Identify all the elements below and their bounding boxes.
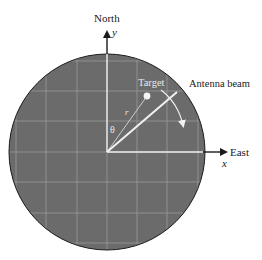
range-label: r bbox=[125, 107, 129, 117]
y-axis-label: y bbox=[111, 26, 117, 38]
angle-label: θ bbox=[110, 124, 115, 135]
radar-diagram: North y East x Antenna beam Target r θ bbox=[0, 0, 262, 260]
x-axis-label: x bbox=[221, 157, 227, 169]
north-label: North bbox=[94, 12, 120, 24]
target-label: Target bbox=[138, 77, 165, 88]
antenna-beam-label: Antenna beam bbox=[189, 78, 250, 89]
east-label: East bbox=[230, 146, 249, 158]
target-dot bbox=[144, 93, 151, 100]
